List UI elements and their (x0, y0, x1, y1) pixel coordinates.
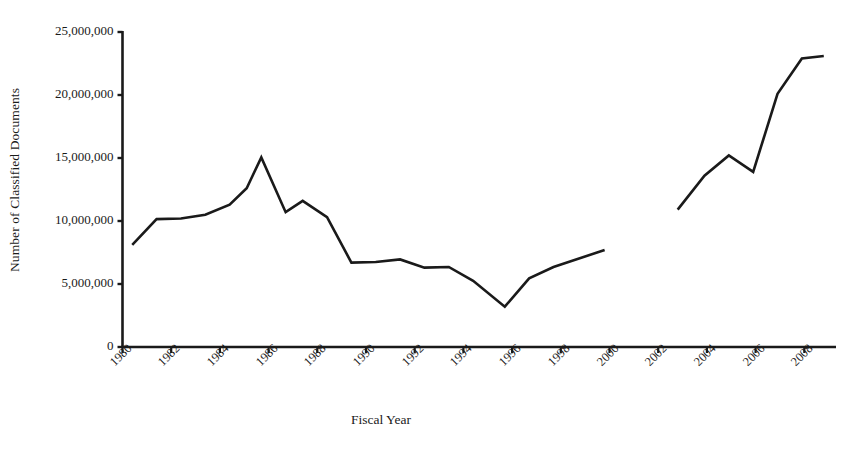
y-axis-tick-label: 15,000,000 (55, 149, 114, 165)
plot-area (0, 0, 849, 449)
data-line-segment-1 (132, 157, 604, 306)
y-axis-tick-label: 20,000,000 (55, 86, 114, 102)
x-axis-title: Fiscal Year (351, 412, 411, 428)
chart-figure: Number of Classified Documents 05,000,00… (0, 0, 849, 449)
axis-lines (121, 31, 836, 347)
data-series-group (132, 56, 824, 307)
y-axis-tick-label: 5,000,000 (62, 275, 114, 291)
y-axis-tick-label: 10,000,000 (55, 212, 114, 228)
data-line-segment-2 (678, 56, 824, 210)
y-axis-tick-label: 25,000,000 (55, 23, 114, 39)
